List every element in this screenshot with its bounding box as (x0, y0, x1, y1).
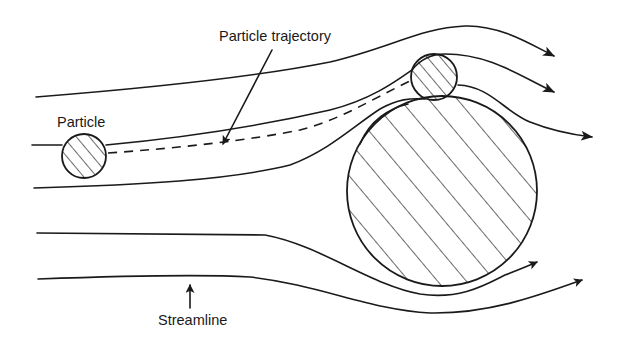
particle-impact-circle (411, 54, 457, 100)
collector-circle (347, 96, 537, 286)
label-particle-trajectory: Particle trajectory (219, 28, 332, 44)
impaction-diagram: Particle trajectory Particle Streamline (0, 0, 622, 342)
particle-start-circle (62, 134, 106, 178)
streamline-5 (38, 276, 582, 314)
trajectory-leader-arrow (223, 50, 272, 144)
label-streamline: Streamline (158, 312, 227, 328)
label-particle: Particle (57, 114, 105, 130)
